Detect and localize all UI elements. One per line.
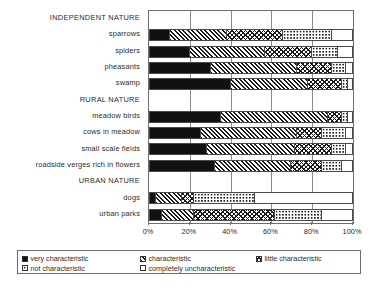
group-label-independent-nature: INDEPENDENT NATURE bbox=[0, 13, 140, 23]
bar-row bbox=[149, 158, 353, 174]
bar-segment bbox=[332, 144, 346, 154]
bar-segment bbox=[207, 144, 296, 154]
bar-segment bbox=[150, 47, 190, 57]
bar-segment bbox=[265, 47, 311, 57]
category-label: meadow birds bbox=[0, 111, 140, 121]
bar-segment bbox=[150, 30, 170, 40]
stacked-bar bbox=[149, 78, 353, 90]
legend-item: characteristic bbox=[140, 254, 191, 263]
bar-row bbox=[149, 76, 353, 92]
stacked-bar bbox=[149, 111, 353, 123]
group-header-row bbox=[149, 93, 353, 109]
bar-segment bbox=[227, 30, 284, 40]
bar-segment bbox=[156, 193, 182, 203]
bar-segment bbox=[221, 112, 328, 122]
bar-segment bbox=[322, 128, 346, 138]
stacked-bar bbox=[149, 127, 353, 139]
bar-segment bbox=[255, 193, 352, 203]
bar-row bbox=[149, 109, 353, 125]
bar-segment bbox=[332, 63, 346, 73]
category-label: spiders bbox=[0, 46, 140, 56]
category-label: small scale fields bbox=[0, 144, 140, 154]
bar-segment bbox=[348, 112, 352, 122]
chart-figure: INDEPENDENT NATUREsparrowsspiderspheasan… bbox=[0, 0, 378, 288]
chart-legend: very characteristiccharacteristiclittle … bbox=[17, 250, 361, 274]
legend-swatch-white bbox=[140, 265, 146, 271]
bar-row bbox=[149, 190, 353, 206]
bar-segment bbox=[150, 144, 207, 154]
plot-area bbox=[148, 10, 354, 224]
legend-swatch-cross-hatch bbox=[256, 256, 262, 262]
stacked-bar bbox=[149, 62, 353, 74]
bar-segment bbox=[297, 63, 331, 73]
bar-segment bbox=[342, 161, 352, 171]
group-header-row bbox=[149, 11, 353, 27]
bar-segment bbox=[150, 128, 201, 138]
legend-item: very characteristic bbox=[22, 254, 88, 263]
category-label: swamp bbox=[0, 78, 140, 88]
bar-segment bbox=[190, 47, 265, 57]
bar-segment bbox=[215, 161, 292, 171]
x-tick bbox=[352, 222, 353, 225]
bar-row bbox=[149, 207, 353, 223]
bar-segment bbox=[150, 79, 231, 89]
category-label: roadside verges rich in flowers bbox=[0, 160, 140, 170]
bar-segment bbox=[346, 144, 352, 154]
bar-segment bbox=[150, 210, 162, 220]
bar-segment bbox=[346, 128, 352, 138]
legend-item: completely uncharacteristic bbox=[140, 264, 235, 273]
category-label: sparrows bbox=[0, 29, 140, 39]
bar-segment bbox=[348, 79, 352, 89]
x-axis-tick-labels: 0%20%40%60%80%100% bbox=[148, 227, 352, 239]
legend-label: completely uncharacteristic bbox=[149, 264, 236, 273]
x-tick bbox=[148, 222, 149, 225]
group-header-row bbox=[149, 174, 353, 190]
bar-segment bbox=[150, 63, 211, 73]
stacked-bar bbox=[149, 209, 353, 221]
x-tick bbox=[311, 222, 312, 225]
bar-segment bbox=[308, 79, 342, 89]
stacked-bar bbox=[149, 160, 353, 172]
bar-segment bbox=[332, 30, 352, 40]
stacked-bar bbox=[149, 192, 353, 204]
legend-item: little characteristic bbox=[256, 254, 322, 263]
bar-segment bbox=[338, 47, 352, 57]
bar-segment bbox=[283, 30, 331, 40]
x-axis-ticks bbox=[148, 222, 352, 226]
legend-swatch-dots bbox=[22, 265, 28, 271]
bar-segment bbox=[194, 210, 275, 220]
category-label: cows in meadow bbox=[0, 127, 140, 137]
bar-segment bbox=[295, 144, 331, 154]
category-label: urban parks bbox=[0, 209, 140, 219]
stacked-bar bbox=[149, 46, 353, 58]
bar-segment bbox=[201, 128, 298, 138]
bar-segment bbox=[194, 193, 255, 203]
bar-segment bbox=[346, 63, 352, 73]
legend-label: characteristic bbox=[149, 254, 191, 263]
bar-row bbox=[149, 60, 353, 76]
bar-row bbox=[149, 125, 353, 141]
bar-segment bbox=[275, 210, 321, 220]
x-tick-label: 80% bbox=[304, 227, 319, 237]
x-tick bbox=[230, 222, 231, 225]
x-tick-label: 100% bbox=[343, 227, 362, 237]
x-tick-label: 20% bbox=[181, 227, 196, 237]
group-label-rural-nature: RURAL NATURE bbox=[0, 95, 140, 105]
legend-label: little characteristic bbox=[265, 254, 322, 263]
bar-row bbox=[149, 44, 353, 60]
bar-rows bbox=[149, 11, 353, 223]
bar-segment bbox=[162, 210, 194, 220]
bar-segment bbox=[328, 112, 342, 122]
x-tick bbox=[270, 222, 271, 225]
bar-segment bbox=[231, 79, 308, 89]
stacked-bar bbox=[149, 143, 353, 155]
bar-segment bbox=[322, 161, 342, 171]
bar-segment bbox=[322, 210, 352, 220]
x-tick-label: 0% bbox=[143, 227, 154, 237]
category-label: pheasants bbox=[0, 62, 140, 72]
category-axis-labels: INDEPENDENT NATUREsparrowsspiderspheasan… bbox=[0, 10, 144, 222]
bar-segment bbox=[150, 161, 215, 171]
group-label-urban-nature: URBAN NATURE bbox=[0, 176, 140, 186]
legend-label: very characteristic bbox=[31, 254, 89, 263]
bar-row bbox=[149, 141, 353, 157]
